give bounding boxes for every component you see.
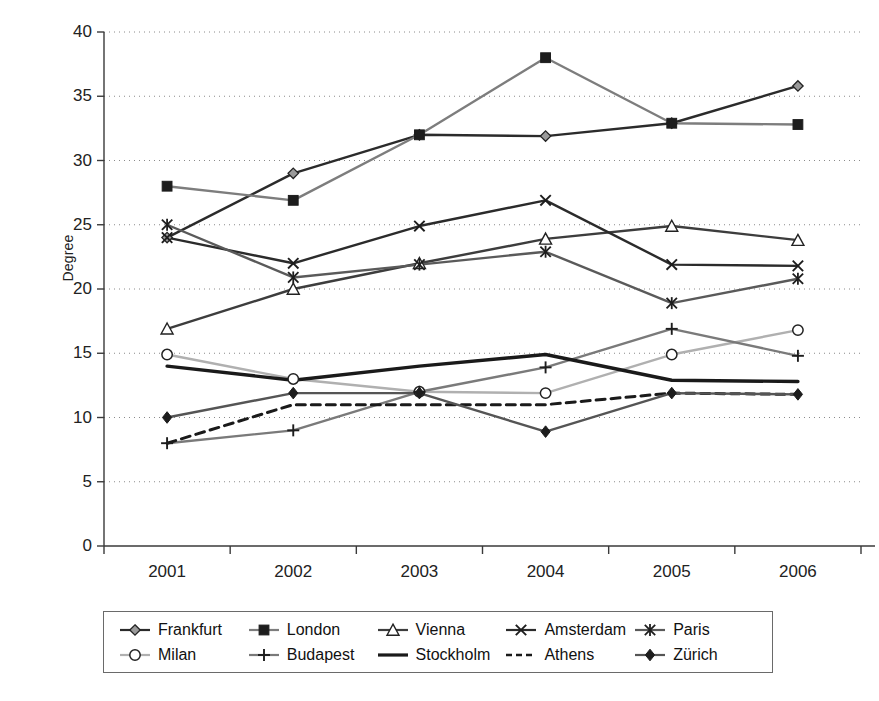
data-point-marker	[130, 624, 140, 634]
legend-marker-plus-icon	[247, 647, 281, 663]
legend-item[interactable]: Athens	[504, 642, 633, 667]
legend-label: Frankfurt	[158, 622, 222, 638]
data-point-marker	[162, 181, 172, 191]
data-point-marker	[287, 424, 299, 436]
legend-item[interactable]: Stockholm	[376, 642, 505, 667]
data-point-marker	[288, 168, 298, 178]
legend-item[interactable]: Milan	[118, 642, 247, 667]
legend-item[interactable]: Paris	[633, 617, 762, 642]
data-point-marker	[541, 426, 550, 438]
series-line	[167, 393, 798, 432]
legend-label: Paris	[673, 622, 709, 638]
data-point-marker	[646, 649, 655, 661]
series-line	[167, 86, 798, 238]
series-line	[167, 355, 798, 382]
legend-marker-none-icon	[504, 647, 538, 663]
legend-marker-filled-diamond-icon	[633, 647, 667, 663]
data-point-marker	[162, 412, 171, 424]
data-point-marker	[161, 437, 173, 449]
legend-label: Zürich	[673, 647, 717, 663]
legend-marker-filled-square-icon	[247, 622, 281, 638]
series-line	[167, 226, 798, 329]
legend-label: London	[287, 622, 340, 638]
legend-label: Stockholm	[416, 647, 491, 663]
data-point-marker	[793, 81, 803, 91]
plot-area	[0, 0, 879, 601]
data-point-marker	[162, 349, 172, 359]
legend-label: Budapest	[287, 647, 355, 663]
legend-marker-open-triangle-icon	[376, 622, 410, 638]
data-point-marker	[258, 649, 270, 661]
data-point-marker	[540, 131, 550, 141]
legend-item[interactable]: Budapest	[247, 642, 376, 667]
data-point-marker	[259, 625, 269, 635]
legend-item[interactable]: Amsterdam	[504, 617, 633, 642]
data-point-marker	[540, 388, 550, 398]
data-point-marker	[793, 389, 802, 401]
legend-label: Milan	[158, 647, 196, 663]
data-point-marker	[289, 387, 298, 399]
data-point-marker	[666, 323, 678, 335]
line-chart: Degree 0510152025303540 2001200220032004…	[0, 0, 879, 701]
chart-legend: FrankfurtLondonViennaAmsterdamParisMilan…	[103, 611, 773, 673]
series-line	[167, 200, 798, 266]
legend-label: Amsterdam	[544, 622, 626, 638]
legend-marker-x-cross-icon	[504, 622, 538, 638]
data-point-marker	[541, 53, 551, 63]
legend-marker-open-diamond-icon	[118, 622, 152, 638]
data-point-marker	[130, 649, 140, 659]
data-point-marker	[667, 118, 677, 128]
legend-label: Vienna	[416, 622, 466, 638]
series-line	[167, 58, 798, 201]
data-point-marker	[793, 120, 803, 130]
data-point-marker	[288, 195, 298, 205]
series-line	[167, 329, 798, 443]
legend-item[interactable]: London	[247, 617, 376, 642]
data-point-marker	[288, 374, 298, 384]
legend-item[interactable]: Vienna	[376, 617, 505, 642]
legend-marker-open-circle-icon	[118, 647, 152, 663]
legend-marker-asterisk-icon	[633, 622, 667, 638]
data-point-marker	[792, 350, 804, 362]
data-point-marker	[793, 325, 803, 335]
legend-label: Athens	[544, 647, 594, 663]
data-point-marker	[667, 349, 677, 359]
legend-item[interactable]: Frankfurt	[118, 617, 247, 642]
data-point-marker	[415, 130, 425, 140]
data-point-marker	[667, 387, 676, 399]
legend-item[interactable]: Zürich	[633, 642, 762, 667]
data-point-marker	[540, 361, 552, 373]
series-line	[167, 393, 798, 443]
legend-marker-none-icon	[376, 647, 410, 663]
data-point-marker	[162, 219, 172, 231]
